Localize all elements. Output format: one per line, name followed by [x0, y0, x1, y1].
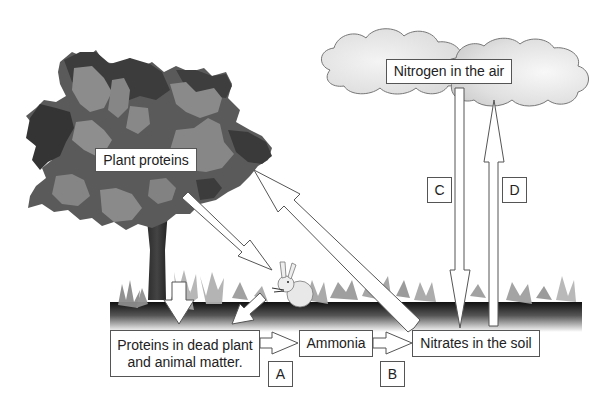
- arrow-D: [484, 100, 504, 326]
- arrow-A: [260, 332, 298, 354]
- node-nitrogen-air: Nitrogen in the air: [386, 59, 512, 84]
- node-nitrates-label: Nitrates in the soil: [420, 335, 531, 352]
- process-label-A: A: [268, 361, 293, 387]
- node-nitrogen-air-label: Nitrogen in the air: [394, 63, 505, 80]
- node-ammonia-label: Ammonia: [306, 335, 365, 352]
- node-dead-matter-line2: and animal matter.: [127, 354, 242, 371]
- arrow-B: [373, 332, 412, 354]
- process-label-B-text: B: [388, 366, 397, 383]
- node-plant-proteins-label: Plant proteins: [103, 152, 189, 169]
- process-label-C-text: C: [434, 182, 444, 199]
- node-dead-matter: Proteins in dead plant and animal matter…: [110, 330, 260, 377]
- process-label-B: B: [380, 361, 405, 387]
- node-plant-proteins: Plant proteins: [95, 148, 197, 172]
- process-label-D: D: [502, 177, 527, 203]
- process-label-C: C: [427, 177, 452, 203]
- node-nitrates: Nitrates in the soil: [412, 330, 540, 357]
- process-label-A-text: A: [276, 366, 285, 383]
- node-dead-matter-line1: Proteins in dead plant: [117, 337, 252, 354]
- rabbit-icon: [272, 262, 313, 307]
- process-label-D-text: D: [509, 182, 519, 199]
- arrow-plant-to-animal: [182, 192, 272, 270]
- tree-canopy-icon: [26, 50, 272, 230]
- node-ammonia: Ammonia: [299, 330, 373, 357]
- arrow-C: [450, 88, 470, 328]
